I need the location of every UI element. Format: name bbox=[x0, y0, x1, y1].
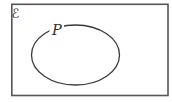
universal-set-boundary bbox=[12, 4, 168, 95]
venn-diagram-svg: P ℰ bbox=[0, 0, 172, 102]
set-p-label: P bbox=[51, 22, 62, 38]
set-diagram: P ℰ bbox=[0, 0, 172, 102]
set-p-ellipse bbox=[32, 25, 120, 85]
universal-set-label: ℰ bbox=[12, 6, 20, 21]
